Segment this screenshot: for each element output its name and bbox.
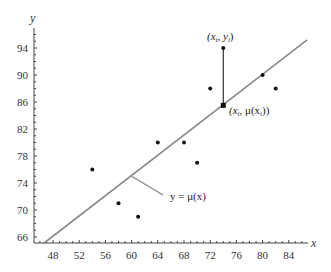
data-point <box>261 73 265 77</box>
x-tick-label: 48 <box>48 249 60 261</box>
x-tick-label: 56 <box>100 249 112 261</box>
data-point <box>90 168 94 172</box>
scatter-regression-chart: 485256606468727680846670747882869094 y x… <box>0 0 331 272</box>
x-tick-label: 80 <box>257 249 269 261</box>
x-tick-label: 52 <box>74 249 85 261</box>
x-tick-label: 68 <box>179 249 191 261</box>
regression-line <box>43 40 307 244</box>
data-point <box>136 215 140 219</box>
observed-point-label: (xi, yi) <box>207 30 234 44</box>
y-axis-label: y <box>29 11 36 25</box>
y-tick-label: 66 <box>17 231 29 243</box>
fitted-value-marker <box>221 103 226 108</box>
x-tick-label: 60 <box>126 249 138 261</box>
x-tick-label: 76 <box>231 249 243 261</box>
fitted-point-label: (xi, μ(xi)) <box>229 104 270 118</box>
regression-line-label: y = μ(x) <box>170 190 206 203</box>
data-point <box>274 87 278 91</box>
y-tick-label: 78 <box>17 150 29 162</box>
data-point <box>117 201 121 205</box>
data-point <box>195 161 199 165</box>
x-tick-label: 64 <box>152 249 164 261</box>
x-axis-label: x <box>310 236 317 250</box>
data-point <box>182 141 186 145</box>
ticks: 485256606468727680846670747882869094 <box>17 35 302 262</box>
data-point <box>221 46 225 50</box>
data-point <box>156 141 160 145</box>
y-tick-label: 90 <box>17 69 29 81</box>
x-tick-label: 84 <box>283 249 295 261</box>
y-tick-label: 74 <box>17 177 29 189</box>
data-point <box>208 87 212 91</box>
y-tick-label: 86 <box>17 96 29 108</box>
axes <box>34 28 308 243</box>
label-pointer-line <box>132 176 163 195</box>
y-tick-label: 70 <box>17 204 29 216</box>
y-tick-label: 94 <box>17 42 29 54</box>
annotations: y x (xi, yi) (xi, μ(xi)) y = μ(x) <box>29 11 317 250</box>
regression-line-path <box>43 40 307 244</box>
y-tick-label: 82 <box>17 123 28 135</box>
x-tick-label: 72 <box>205 249 216 261</box>
